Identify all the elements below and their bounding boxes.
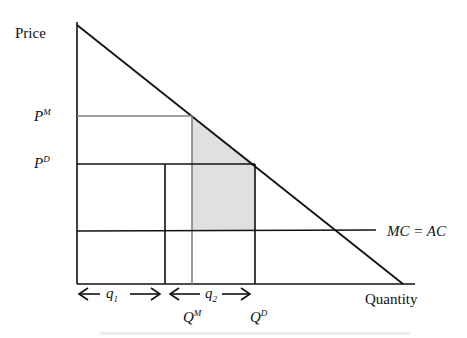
y-axis-label: Price bbox=[15, 25, 46, 41]
mc-ac-label: MC = AC bbox=[386, 223, 447, 239]
duopoly-quantity-label: QD bbox=[250, 308, 268, 325]
duopoly-price-label: PD bbox=[33, 154, 50, 171]
mc-ac-line bbox=[77, 230, 376, 231]
shaded-welfare-region bbox=[192, 116, 255, 230]
economics-diagram: Price PM PD MC = AC Quantity q1 q2 QM QD bbox=[0, 0, 467, 338]
x-axis-label: Quantity bbox=[365, 291, 418, 307]
monopoly-quantity-label: QM bbox=[183, 308, 202, 325]
demand-curve bbox=[77, 25, 403, 284]
q2-label: q2 bbox=[205, 285, 218, 304]
q1-label: q1 bbox=[106, 285, 118, 304]
faded-caption bbox=[100, 332, 410, 335]
q1-interval-arrow bbox=[79, 288, 160, 300]
monopoly-price-label: PM bbox=[33, 107, 51, 124]
